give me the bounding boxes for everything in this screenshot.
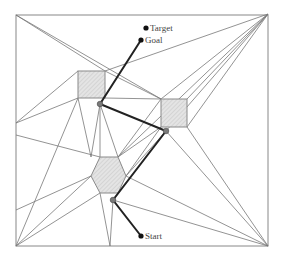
path-node-2 xyxy=(163,128,169,134)
target-label: Target xyxy=(150,23,173,33)
path-node-3 xyxy=(97,101,103,107)
start-label: Start xyxy=(145,231,162,241)
square-obstacle-1 xyxy=(78,71,105,98)
roadmap-edges xyxy=(16,14,268,246)
square-obstacle-2 xyxy=(161,99,187,127)
roadmap-diagram xyxy=(0,0,284,255)
hexagon-obstacle xyxy=(91,157,126,193)
target-point-icon xyxy=(143,25,148,30)
goal-label: Goal xyxy=(145,35,163,45)
start-point-icon xyxy=(138,233,143,238)
goal-point-icon xyxy=(138,37,143,42)
path-node-1 xyxy=(110,197,116,203)
